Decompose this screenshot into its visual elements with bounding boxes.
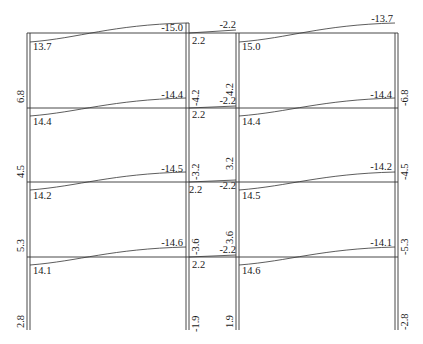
label-f2-right-start: 14.5 (242, 190, 260, 201)
label-roof-left-end: -15.0 (161, 22, 183, 33)
beam-labels: 13.7 -15.0 2.2 -2.2 15.0 -13.7 14.4 -14.… (33, 13, 393, 276)
label-roof-left-start: 13.7 (33, 41, 51, 52)
curve-f1-right (239, 247, 395, 265)
label-col-ri-3: 3.6 (224, 231, 235, 244)
column-labels: 6.8 4.5 5.3 2.8 -4.2 -3.2 -3.6 -1.9 4.2 … (15, 83, 410, 332)
label-f2-mid-end: -2.2 (219, 180, 236, 191)
curve-f3-left (30, 98, 186, 116)
label-roof-mid-end: -2.2 (219, 19, 236, 30)
label-f3-left-start: 14.4 (33, 116, 52, 127)
label-f2-mid-start: 2.2 (189, 184, 202, 195)
label-col-li-1: -4.2 (190, 89, 201, 106)
label-col-li-2: -3.2 (190, 163, 201, 180)
label-col-lo-2: 4.5 (15, 165, 26, 178)
label-f2-left-end: -14.5 (161, 163, 183, 174)
curve-f1-left (30, 247, 186, 265)
label-col-lo-4: 2.8 (15, 315, 26, 328)
label-col-ro-3: -5.3 (399, 238, 410, 255)
curve-f3-right (239, 98, 395, 116)
label-f2-right-end: -14.2 (370, 161, 392, 172)
label-col-lo-3: 5.3 (15, 239, 26, 252)
label-f3-mid-start: 2.2 (192, 109, 205, 120)
label-col-ri-4: 1.9 (224, 315, 235, 328)
diagram-svg: 13.7 -15.0 2.2 -2.2 15.0 -13.7 14.4 -14.… (0, 0, 423, 344)
frame-lines (27, 23, 398, 330)
label-f3-right-start: 14.4 (242, 116, 261, 127)
label-f2-left-start: 14.2 (33, 190, 51, 201)
label-col-li-3: -3.6 (190, 238, 201, 255)
curve-f2-right (239, 172, 395, 190)
curve-f2-left (30, 172, 186, 190)
label-col-lo-1: 6.8 (15, 90, 26, 103)
moment-curves (30, 23, 395, 265)
label-col-ri-1: 4.2 (224, 83, 235, 96)
label-f1-right-end: -14.1 (370, 237, 392, 248)
label-col-ro-2: -4.5 (399, 163, 410, 180)
label-col-ro-4: -2.8 (399, 313, 410, 330)
label-f1-left-end: -14.6 (161, 237, 183, 248)
label-f3-left-end: -14.4 (161, 89, 184, 100)
frame-moment-diagram: 13.7 -15.0 2.2 -2.2 15.0 -13.7 14.4 -14.… (0, 0, 423, 344)
label-f1-left-start: 14.1 (33, 265, 51, 276)
curve-roof-right (239, 23, 395, 42)
label-roof-right-end: -13.7 (371, 13, 393, 24)
label-col-ro-1: -6.8 (399, 89, 410, 106)
label-f1-mid-start: 2.2 (192, 259, 205, 270)
label-roof-right-start: 15.0 (242, 41, 260, 52)
label-col-ri-2: 3.2 (224, 157, 235, 170)
label-f1-mid-end: -2.2 (219, 244, 236, 255)
label-f1-right-start: 14.6 (242, 265, 260, 276)
label-f3-right-end: -14.4 (370, 89, 393, 100)
label-col-li-4: -1.9 (190, 315, 201, 332)
label-roof-mid-start: 2.2 (192, 35, 205, 46)
